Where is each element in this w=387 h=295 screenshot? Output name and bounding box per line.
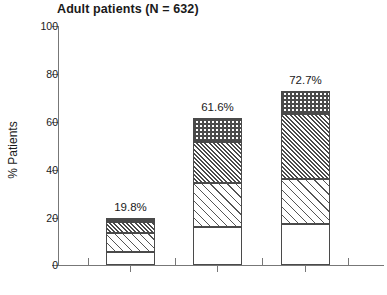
- x-separator-4: [348, 258, 349, 265]
- bar-2-segment-3: [193, 142, 242, 183]
- chart-title: Adult patients (N = 632): [57, 2, 199, 16]
- bar-1-segment-3: [106, 222, 155, 233]
- x-tick-2: [217, 266, 218, 272]
- chart-figure: Adult patients (N = 632) % Patients 100 …: [0, 0, 387, 295]
- y-tick-label-60: 60: [18, 117, 58, 127]
- x-separator-2: [175, 258, 176, 265]
- y-tick-label-100: 100: [18, 21, 58, 31]
- bar-2-segment-4: [193, 118, 242, 142]
- bar-1-data-label: 19.8%: [96, 201, 165, 213]
- bar-2-data-label: 61.6%: [183, 101, 252, 113]
- y-axis-label: % Patients: [6, 90, 20, 210]
- y-axis-line: [58, 26, 59, 266]
- y-tick-label-20: 20: [18, 213, 58, 223]
- x-tick-3: [305, 266, 306, 272]
- x-tick-1: [130, 266, 131, 272]
- y-tick-label-0: 0: [18, 260, 58, 270]
- bar-3-segment-4: [281, 91, 330, 114]
- bar-1-segment-2: [106, 233, 155, 251]
- bar-3-segment-2: [281, 179, 330, 224]
- bar-group-2[interactable]: [193, 118, 242, 265]
- bar-3-data-label: 72.7%: [271, 74, 340, 86]
- x-axis-line: [58, 265, 384, 266]
- bar-2-segment-2: [193, 183, 242, 227]
- bar-group-3[interactable]: [281, 91, 330, 265]
- bar-3-segment-3: [281, 114, 330, 179]
- bar-3-segment-1: [281, 224, 330, 265]
- x-separator-3: [262, 258, 263, 265]
- bar-group-1[interactable]: [106, 218, 155, 265]
- y-tick-label-80: 80: [18, 69, 58, 79]
- bar-2-segment-1: [193, 227, 242, 265]
- x-separator-1: [88, 258, 89, 265]
- bar-1-segment-1: [106, 252, 155, 265]
- y-tick-label-40: 40: [18, 165, 58, 175]
